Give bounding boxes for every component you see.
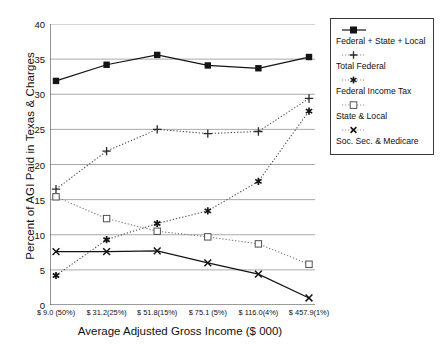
series-markers	[52, 52, 313, 302]
y-axis-title: Percent of AGI Paid in Texas & Charges	[24, 6, 36, 306]
legend-swatch-soc-sec-medicare	[336, 124, 428, 135]
chart-figure: Percent of AGI Paid in Texas & Charges 0…	[0, 0, 441, 345]
data-point-marker	[205, 207, 211, 214]
x-tick-label: $ 75.1 (5%)	[189, 308, 227, 317]
data-point-marker	[154, 220, 160, 227]
x-tick-label: $ 31.2(25%)	[86, 308, 126, 317]
legend-label-federal-income-tax: Federal Income Tax	[336, 85, 429, 97]
y-tick-label: 30	[34, 89, 45, 100]
data-point-marker	[102, 147, 110, 155]
data-point-marker	[204, 129, 212, 137]
y-tick-label: 10	[34, 229, 45, 240]
x-tick-label: $ 51.8(15%)	[137, 308, 177, 317]
x-axis-title: Average Adjusted Gross Income ($ 000)	[30, 325, 330, 337]
legend-item[interactable]: Soc. Sec. & Medicare	[336, 124, 429, 147]
legend-item[interactable]: State & Local	[336, 99, 429, 122]
legend-swatch-federal-income-tax	[336, 74, 428, 85]
data-point-marker	[306, 108, 312, 115]
data-point-marker	[154, 228, 160, 234]
plot-area: 0510152025303540	[50, 24, 315, 305]
y-tick-label: 40	[34, 19, 45, 30]
data-point-marker	[53, 194, 59, 200]
legend-item[interactable]: Federal + State + Local	[336, 24, 429, 47]
series-lines	[56, 55, 309, 298]
legend-label-total-federal: Total Federal	[336, 60, 429, 72]
legend-item[interactable]: Federal Income Tax	[336, 74, 429, 97]
y-tick-label: 5	[40, 264, 45, 275]
plot-svg	[50, 24, 315, 305]
data-point-marker	[154, 52, 160, 58]
legend-swatch-total-federal	[336, 49, 428, 60]
data-point-marker	[255, 241, 261, 247]
x-tick-labels: $ 9.0 (50%)$ 31.2(25%)$ 51.8(15%)$ 75.1 …	[40, 308, 330, 322]
chart-legend: Federal + State + Local Total Federal Fe…	[330, 18, 434, 155]
data-point-marker	[306, 261, 312, 267]
legend-label-soc-sec-medicare: Soc. Sec. & Medicare	[336, 135, 429, 147]
data-point-marker	[306, 295, 313, 302]
x-tick-label: $ 116.0(4%)	[239, 308, 279, 317]
y-tick-label: 15	[34, 194, 45, 205]
legend-item[interactable]: Total Federal	[336, 49, 429, 72]
gridlines	[50, 24, 315, 305]
data-point-marker	[305, 94, 313, 102]
data-point-marker	[205, 62, 211, 68]
data-point-marker	[52, 185, 60, 193]
data-point-marker	[103, 62, 109, 68]
legend-label-state-local: State & Local	[336, 110, 429, 122]
data-point-marker	[306, 54, 312, 60]
y-tick-label: 35	[34, 54, 45, 65]
y-tick-label: 20	[34, 159, 45, 170]
data-point-marker	[53, 272, 59, 279]
data-point-marker	[255, 65, 261, 71]
data-point-marker	[53, 78, 59, 84]
data-point-marker	[153, 125, 161, 133]
x-tick-label: $ 9.0 (50%)	[37, 308, 75, 317]
data-point-marker	[205, 234, 211, 240]
legend-swatch-federal-state-local	[336, 24, 428, 35]
data-point-marker	[255, 178, 261, 185]
data-point-marker	[103, 236, 109, 243]
data-point-marker	[103, 215, 109, 221]
x-tick-label: $ 457.9(1%)	[289, 308, 329, 317]
data-point-marker	[254, 127, 262, 135]
legend-label-federal-state-local: Federal + State + Local	[336, 35, 429, 47]
legend-swatch-state-local	[336, 99, 428, 110]
y-tick-label: 25	[34, 124, 45, 135]
